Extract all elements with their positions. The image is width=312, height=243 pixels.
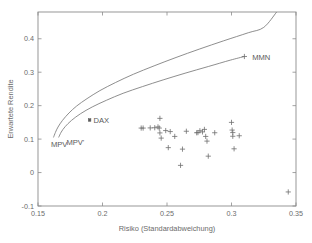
y-tick-label: 0.1 — [24, 135, 34, 144]
x-tick-label: 0.25 — [160, 209, 174, 218]
x-tick-label: 0.3 — [227, 209, 237, 218]
annotation-mmn: MMN — [252, 53, 270, 62]
chart-figure: 0.150.20.250.30.35-0.100.10.20.30.4 MPVM… — [0, 0, 312, 243]
scatter-plot: 0.150.20.250.30.35-0.100.10.20.30.4 MPVM… — [0, 0, 312, 243]
y-tick-label: 0.3 — [24, 68, 34, 77]
plot-background — [0, 0, 312, 243]
y-tick-label: 0.4 — [24, 34, 34, 43]
dax-marker — [88, 119, 91, 122]
x-tick-label: 0.35 — [289, 209, 303, 218]
annotation-mpv-prime: MPV' — [66, 138, 84, 147]
y-tick-label: 0 — [30, 168, 34, 177]
y-tick-label: -0.1 — [22, 202, 34, 211]
y-tick-label: 0.2 — [24, 101, 34, 110]
x-axis-title: Risiko (Standardabweichung) — [119, 224, 216, 233]
y-axis-title: Erwartete Rendite — [6, 79, 15, 138]
annotation-dax: DAX — [93, 116, 109, 125]
x-tick-label: 0.2 — [98, 209, 108, 218]
